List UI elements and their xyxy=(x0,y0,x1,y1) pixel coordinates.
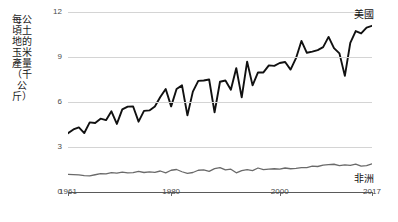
gridline-9 xyxy=(68,57,372,58)
x-tick-label: 1980 xyxy=(162,187,180,196)
gridline-6 xyxy=(68,102,372,103)
maize-yield-chart: 每公頃土地的玉米產量（千公斤） 0369121961198020002017美國… xyxy=(0,0,398,222)
gridline-12 xyxy=(68,12,372,13)
x-axis-line xyxy=(68,192,372,193)
x-tick-label: 2000 xyxy=(271,187,289,196)
plot-area xyxy=(68,12,372,192)
y-tick-label: 9 xyxy=(36,52,62,61)
y-tick-label: 3 xyxy=(36,142,62,151)
x-tick-label: 2017 xyxy=(363,187,381,196)
series-line-0 xyxy=(68,26,372,133)
x-tick-label: 1961 xyxy=(59,187,77,196)
series-line-1 xyxy=(68,164,372,176)
series-lines xyxy=(68,12,372,194)
y-axis-title: 每公頃土地的玉米產量（千公斤） xyxy=(12,14,32,204)
series-label-1: 非洲 xyxy=(354,170,374,185)
gridline-3 xyxy=(68,147,372,148)
series-label-0: 美國 xyxy=(354,6,374,21)
y-tick-label: 12 xyxy=(36,7,62,16)
y-tick-label: 6 xyxy=(36,97,62,106)
y-tick-label: 0 xyxy=(36,187,62,196)
